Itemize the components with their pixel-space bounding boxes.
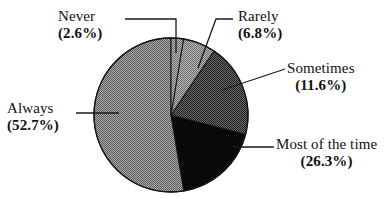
pie-label-always-percent: (52.7%): [7, 117, 59, 134]
pie-label-sometimes-category: Sometimes: [287, 60, 355, 77]
pie-label-always-category: Always: [7, 100, 59, 117]
pie-label-rarely: Rarely (6.8%): [238, 8, 282, 42]
pie-label-most-of-the-time-percent: (26.3%): [276, 153, 377, 170]
pie-label-sometimes-percent: (11.6%): [287, 77, 355, 94]
pie-label-most-of-the-time: Most of the time (26.3%): [276, 136, 377, 170]
pie-label-rarely-category: Rarely: [238, 8, 282, 25]
pie-chart-figure: Never (2.6%) Rarely (6.8%) Sometimes (11…: [0, 0, 388, 199]
pie-label-most-of-the-time-category: Most of the time: [276, 136, 377, 153]
pie-label-always: Always (52.7%): [7, 100, 59, 134]
pie-label-never-category: Never: [58, 8, 102, 25]
pie-label-never: Never (2.6%): [58, 8, 102, 42]
pie-label-sometimes: Sometimes (11.6%): [287, 60, 355, 94]
pie-label-never-percent: (2.6%): [58, 25, 102, 42]
pie-label-rarely-percent: (6.8%): [238, 25, 282, 42]
